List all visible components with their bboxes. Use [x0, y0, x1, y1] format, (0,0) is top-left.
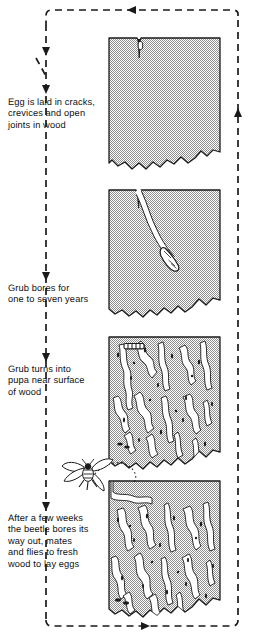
wood-body-1 [109, 38, 220, 169]
arrow-left-grub-head [42, 272, 50, 281]
flow-path-top [46, 10, 238, 24]
caption-beetle: After a few weeks the beetle bores its w… [8, 513, 114, 570]
arrow-left-upper-head [42, 47, 50, 56]
wood-panel-egg [109, 38, 220, 169]
beetle-icon [62, 459, 113, 491]
arrow-left-beetle-head [42, 502, 50, 511]
caption-egg: Egg is laid in cracks, crevices and open… [8, 97, 112, 131]
wood-panel-pupa [109, 337, 220, 469]
caption-grub: Grub bores for one to seven years [8, 283, 112, 306]
egg-icon [138, 41, 143, 49]
arrow-right-up-head [234, 108, 242, 117]
arrow-left-egg-head [42, 85, 50, 94]
arrow-top-left-head [127, 6, 136, 14]
arrow-left-pupa-head [42, 353, 50, 362]
life-cycle-diagram: Egg is laid in cracks, crevices and open… [0, 0, 261, 641]
wood-panel-beetle [109, 481, 220, 618]
caption-pupa: Grub turns into pupa near surface of woo… [8, 364, 112, 398]
arrow-bottom-right-head [141, 622, 150, 630]
wood-panel-grub [109, 190, 220, 317]
pupa-icon [124, 344, 144, 349]
